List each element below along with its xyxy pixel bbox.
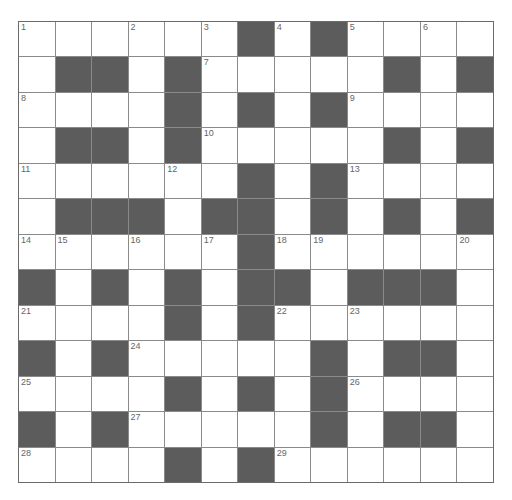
crossword-cell[interactable]: 7 xyxy=(202,57,238,91)
crossword-cell[interactable] xyxy=(348,341,384,375)
crossword-cell[interactable] xyxy=(129,93,165,127)
crossword-cell[interactable] xyxy=(92,164,128,198)
crossword-cell[interactable] xyxy=(165,22,201,56)
crossword-cell[interactable] xyxy=(202,93,238,127)
crossword-cell[interactable]: 25 xyxy=(19,377,55,411)
crossword-cell[interactable] xyxy=(421,57,457,91)
crossword-cell[interactable] xyxy=(384,22,420,56)
crossword-cell[interactable]: 20 xyxy=(457,235,493,269)
crossword-cell[interactable]: 4 xyxy=(275,22,311,56)
crossword-cell[interactable] xyxy=(348,448,384,482)
crossword-cell[interactable] xyxy=(165,235,201,269)
crossword-cell[interactable] xyxy=(311,306,347,340)
crossword-cell[interactable] xyxy=(92,448,128,482)
crossword-cell[interactable]: 16 xyxy=(129,235,165,269)
crossword-cell[interactable] xyxy=(56,22,92,56)
crossword-cell[interactable] xyxy=(421,448,457,482)
crossword-cell[interactable] xyxy=(311,270,347,304)
crossword-cell[interactable] xyxy=(238,57,274,91)
crossword-cell[interactable] xyxy=(129,377,165,411)
crossword-cell[interactable]: 29 xyxy=(275,448,311,482)
crossword-cell[interactable]: 3 xyxy=(202,22,238,56)
crossword-cell[interactable] xyxy=(457,341,493,375)
crossword-cell[interactable] xyxy=(421,164,457,198)
crossword-cell[interactable] xyxy=(92,235,128,269)
crossword-cell[interactable] xyxy=(202,412,238,446)
crossword-cell[interactable]: 11 xyxy=(19,164,55,198)
crossword-cell[interactable]: 13 xyxy=(348,164,384,198)
crossword-cell[interactable] xyxy=(202,377,238,411)
crossword-cell[interactable] xyxy=(457,412,493,446)
crossword-cell[interactable] xyxy=(457,448,493,482)
crossword-cell[interactable] xyxy=(92,306,128,340)
crossword-cell[interactable]: 14 xyxy=(19,235,55,269)
crossword-cell[interactable] xyxy=(384,164,420,198)
crossword-cell[interactable] xyxy=(275,57,311,91)
crossword-cell[interactable] xyxy=(129,57,165,91)
crossword-cell[interactable] xyxy=(384,93,420,127)
crossword-cell[interactable] xyxy=(92,377,128,411)
crossword-cell[interactable] xyxy=(92,22,128,56)
crossword-cell[interactable] xyxy=(165,412,201,446)
crossword-cell[interactable] xyxy=(129,448,165,482)
crossword-cell[interactable]: 17 xyxy=(202,235,238,269)
crossword-cell[interactable]: 6 xyxy=(421,22,457,56)
crossword-cell[interactable] xyxy=(129,164,165,198)
crossword-cell[interactable] xyxy=(275,93,311,127)
crossword-cell[interactable] xyxy=(275,128,311,162)
crossword-cell[interactable] xyxy=(421,128,457,162)
crossword-cell[interactable] xyxy=(348,199,384,233)
crossword-cell[interactable]: 2 xyxy=(129,22,165,56)
crossword-cell[interactable] xyxy=(421,199,457,233)
crossword-cell[interactable] xyxy=(275,412,311,446)
crossword-cell[interactable]: 28 xyxy=(19,448,55,482)
crossword-cell[interactable] xyxy=(348,128,384,162)
crossword-cell[interactable] xyxy=(56,270,92,304)
crossword-cell[interactable] xyxy=(202,270,238,304)
crossword-cell[interactable]: 19 xyxy=(311,235,347,269)
crossword-cell[interactable] xyxy=(56,341,92,375)
crossword-cell[interactable]: 1 xyxy=(19,22,55,56)
crossword-cell[interactable] xyxy=(56,93,92,127)
crossword-cell[interactable] xyxy=(19,128,55,162)
crossword-cell[interactable] xyxy=(421,306,457,340)
crossword-cell[interactable] xyxy=(129,128,165,162)
crossword-cell[interactable] xyxy=(56,448,92,482)
crossword-cell[interactable] xyxy=(457,270,493,304)
crossword-cell[interactable]: 24 xyxy=(129,341,165,375)
crossword-cell[interactable] xyxy=(202,448,238,482)
crossword-cell[interactable]: 23 xyxy=(348,306,384,340)
crossword-cell[interactable] xyxy=(19,57,55,91)
crossword-cell[interactable] xyxy=(457,306,493,340)
crossword-cell[interactable] xyxy=(238,412,274,446)
crossword-cell[interactable]: 5 xyxy=(348,22,384,56)
crossword-cell[interactable] xyxy=(129,270,165,304)
crossword-cell[interactable] xyxy=(238,341,274,375)
crossword-cell[interactable]: 10 xyxy=(202,128,238,162)
crossword-cell[interactable]: 9 xyxy=(348,93,384,127)
crossword-cell[interactable] xyxy=(56,412,92,446)
crossword-cell[interactable]: 15 xyxy=(56,235,92,269)
crossword-cell[interactable] xyxy=(384,306,420,340)
crossword-cell[interactable] xyxy=(275,164,311,198)
crossword-cell[interactable] xyxy=(421,235,457,269)
crossword-cell[interactable] xyxy=(457,22,493,56)
crossword-cell[interactable] xyxy=(311,57,347,91)
crossword-cell[interactable]: 21 xyxy=(19,306,55,340)
crossword-cell[interactable] xyxy=(275,341,311,375)
crossword-cell[interactable]: 18 xyxy=(275,235,311,269)
crossword-cell[interactable] xyxy=(202,164,238,198)
crossword-cell[interactable] xyxy=(275,199,311,233)
crossword-cell[interactable] xyxy=(56,164,92,198)
crossword-cell[interactable] xyxy=(202,306,238,340)
crossword-cell[interactable]: 27 xyxy=(129,412,165,446)
crossword-cell[interactable] xyxy=(457,377,493,411)
crossword-cell[interactable] xyxy=(384,235,420,269)
crossword-cell[interactable] xyxy=(129,306,165,340)
crossword-cell[interactable] xyxy=(421,377,457,411)
crossword-cell[interactable] xyxy=(238,128,274,162)
crossword-cell[interactable] xyxy=(457,93,493,127)
crossword-cell[interactable]: 12 xyxy=(165,164,201,198)
crossword-cell[interactable] xyxy=(19,199,55,233)
crossword-cell[interactable] xyxy=(56,306,92,340)
